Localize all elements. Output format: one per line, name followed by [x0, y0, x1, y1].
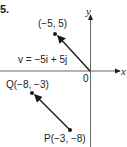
v-equation-label: v = −5i + 5j — [18, 55, 67, 65]
figure-number: 5. — [0, 4, 9, 15]
point-p — [68, 128, 72, 132]
q-point-label: Q(−8, −3) — [6, 80, 49, 90]
p-point-label: P(−3, −8) — [44, 134, 86, 144]
x-axis-label: x — [121, 66, 126, 77]
point-v-tip — [53, 32, 57, 36]
y-axis-label: y — [86, 6, 91, 17]
vector-diagram: 5. y x 0 (−5, 5) v = −5i + 5j Q(−8, −3) … — [0, 0, 127, 147]
vector-pq — [35, 95, 70, 130]
origin-label: 0 — [83, 74, 89, 84]
v-tip-label: (−5, 5) — [38, 19, 67, 29]
point-q — [30, 91, 34, 95]
